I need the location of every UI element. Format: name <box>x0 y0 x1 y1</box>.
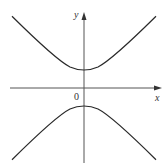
origin-label: 0 <box>74 91 79 102</box>
y-axis-arrow-icon <box>82 12 87 20</box>
x-axis-arrow-icon <box>154 86 162 91</box>
x-axis-label: x <box>154 92 160 103</box>
y-axis-label: y <box>73 9 79 20</box>
hyperbola-diagram: y x 0 <box>0 0 165 168</box>
x-axis <box>10 86 162 91</box>
